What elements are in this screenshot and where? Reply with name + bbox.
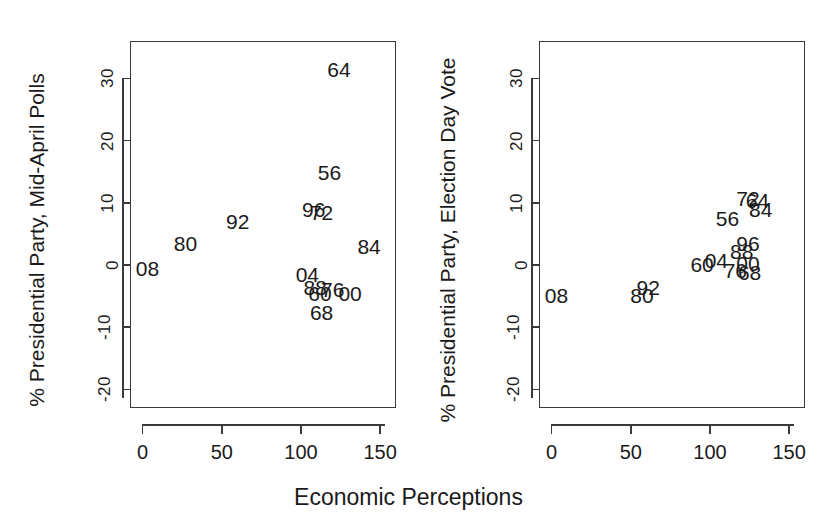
x-axis-tick xyxy=(379,424,381,434)
x-axis-tick-label: 50 xyxy=(211,441,233,464)
x-axis-tick-label: 0 xyxy=(137,441,148,464)
y-axis-tick-label-text: 20 xyxy=(98,131,118,151)
y-axis-tick-label-text: 30 xyxy=(98,68,118,88)
y-axis-tick-label: 30 xyxy=(0,68,118,88)
y-axis-tick-label-text: -10 xyxy=(95,314,115,340)
y-axis-tick xyxy=(531,202,540,204)
y-axis-tick xyxy=(531,140,540,142)
scatter-panel-right: % Presidential Party, Election Day Vote … xyxy=(409,0,817,480)
y-axis-tick-label: -20 xyxy=(0,379,118,399)
x-axis-tick-label: 150 xyxy=(363,441,396,464)
plot-frame-right xyxy=(539,41,805,408)
x-axis-tick-label: 50 xyxy=(620,441,642,464)
y-axis-tick xyxy=(531,78,540,80)
data-point-label: 08 xyxy=(136,258,159,279)
x-axis-tick xyxy=(788,424,790,434)
y-axis-tick-label-text: -20 xyxy=(95,376,115,402)
scatter-panel-left: % Presidential Party, Mid-April Polls 64… xyxy=(0,0,408,480)
x-axis-line-left xyxy=(142,424,385,426)
y-axis-tick-label: 0 xyxy=(409,255,527,275)
data-point-label: 64 xyxy=(327,58,350,79)
y-axis-tick-label-text: 0 xyxy=(512,260,532,270)
x-axis-line-right xyxy=(551,424,794,426)
y-axis-tick-label: -20 xyxy=(409,379,527,399)
y-axis-tick-label: -10 xyxy=(409,317,527,337)
y-axis-tick-label-text: 30 xyxy=(507,68,527,88)
y-axis-tick xyxy=(531,326,540,328)
y-axis-tick-label-text: 10 xyxy=(98,193,118,213)
y-axis-tick xyxy=(122,202,131,204)
y-axis-tick-label-text: 10 xyxy=(507,193,527,213)
x-axis-tick xyxy=(709,424,711,434)
data-point-label: 00 xyxy=(338,282,361,303)
y-axis-tick-label-text: 20 xyxy=(507,131,527,151)
data-point-label: 80 xyxy=(174,233,197,254)
x-axis-tick-label: 0 xyxy=(546,441,557,464)
data-point-label: 68 xyxy=(738,262,761,283)
x-axis-tick xyxy=(630,424,632,434)
y-axis-tick-label: -10 xyxy=(0,317,118,337)
x-axis-tick-label: 150 xyxy=(772,441,805,464)
data-point-label: 56 xyxy=(716,208,739,229)
data-point-label: 84 xyxy=(749,198,772,219)
y-axis-tick-label: 20 xyxy=(0,131,118,151)
y-axis-tick xyxy=(531,389,540,391)
y-axis-tick-label-text: 0 xyxy=(103,260,123,270)
y-axis-tick-label: 0 xyxy=(0,255,118,275)
y-axis-tick xyxy=(122,264,131,266)
y-axis-tick-label: 20 xyxy=(409,131,527,151)
figure-canvas: % Presidential Party, Mid-April Polls 64… xyxy=(0,0,817,529)
y-axis-line-left xyxy=(122,79,124,398)
y-axis-tick xyxy=(122,326,131,328)
data-point-label: 08 xyxy=(545,284,568,305)
x-axis-tick xyxy=(300,424,302,434)
x-axis-tick-label: 100 xyxy=(693,441,726,464)
x-axis-tick xyxy=(142,424,144,434)
y-axis-tick-label: 10 xyxy=(409,193,527,213)
x-axis-tick-label: 100 xyxy=(284,441,317,464)
y-axis-tick xyxy=(122,389,131,391)
y-axis-tick xyxy=(122,78,131,80)
y-axis-line-right xyxy=(531,79,533,398)
data-point-label: 84 xyxy=(357,236,380,257)
data-point-label: 72 xyxy=(310,202,333,223)
x-axis-tick xyxy=(221,424,223,434)
data-point-label: 68 xyxy=(310,301,333,322)
y-axis-tick xyxy=(531,264,540,266)
y-axis-tick-label: 30 xyxy=(409,68,527,88)
data-point-label: 80 xyxy=(630,284,653,305)
data-point-label: 56 xyxy=(318,161,341,182)
y-axis-tick xyxy=(122,140,131,142)
y-axis-tick-label-text: -20 xyxy=(504,376,524,402)
x-axis-title: Economic Perceptions xyxy=(0,484,817,511)
x-axis-tick xyxy=(551,424,553,434)
data-point-label: 92 xyxy=(226,211,249,232)
plot-frame-left xyxy=(130,41,396,408)
y-axis-tick-label-text: -10 xyxy=(504,314,524,340)
y-axis-tick-label: 10 xyxy=(0,193,118,213)
